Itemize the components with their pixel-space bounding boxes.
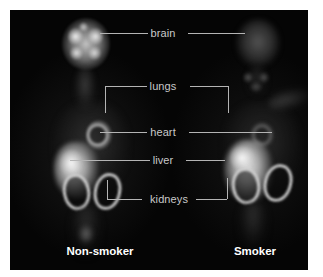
annotation-label-kidneys: kidneys — [150, 194, 188, 205]
annotation-label-liver: liver — [153, 155, 174, 166]
bracket-tick-lungs-right — [228, 86, 229, 113]
annotation-label-lungs: lungs — [150, 81, 177, 92]
leader-line-lungs-right — [190, 86, 228, 87]
leader-line-liver-right — [186, 160, 225, 161]
leader-line-brain-right — [188, 33, 245, 34]
pet-scan-figure: brain lungs heart liver kidneys Non-smok… — [0, 0, 323, 277]
pet-scan-panel: brain lungs heart liver kidneys Non-smok… — [10, 10, 308, 270]
leader-line-kidneys-right — [196, 199, 227, 200]
leader-line-kidneys-left — [107, 199, 142, 200]
leader-line-heart-left — [100, 132, 147, 133]
bracket-tick-kidneys-right — [227, 178, 228, 199]
annotation-label-brain: brain — [151, 28, 176, 39]
caption-smoker: Smoker — [234, 246, 276, 258]
annotation-label-heart: heart — [150, 127, 176, 138]
bracket-tick-lungs-left — [105, 86, 106, 113]
leader-line-lungs-left — [105, 86, 147, 87]
leader-line-liver-left — [70, 160, 150, 161]
caption-non-smoker: Non-smoker — [66, 246, 133, 258]
annotation-layer: brain lungs heart liver kidneys Non-smok… — [10, 10, 308, 270]
leader-line-brain-left — [100, 33, 148, 34]
bracket-tick-kidneys-left — [107, 180, 108, 199]
leader-line-heart-right — [189, 132, 272, 133]
